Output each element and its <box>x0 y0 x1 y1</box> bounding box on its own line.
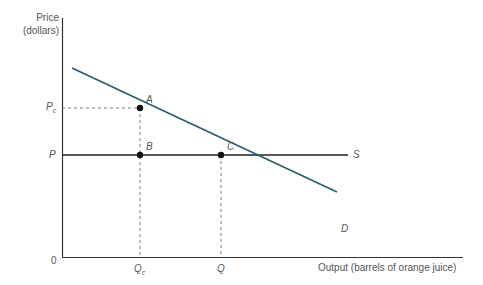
point-b-marker <box>137 152 143 158</box>
x-axis-label: Output (barrels of orange juice) <box>318 262 456 273</box>
point-c-label: C <box>227 141 234 152</box>
y-tick-pc: Pc <box>46 101 56 114</box>
origin-label: 0 <box>51 255 57 266</box>
y-axis-label-line2: (dollars) <box>20 25 59 36</box>
y-tick-p: P <box>49 149 56 160</box>
point-c-marker <box>218 152 224 158</box>
point-a-marker <box>137 105 143 111</box>
point-b-label: B <box>146 141 153 152</box>
x-tick-q: Q <box>217 263 225 274</box>
point-a-label: A <box>146 94 153 105</box>
supply-demand-chart <box>0 0 483 285</box>
supply-curve-label: S <box>353 149 360 160</box>
x-tick-qc: Qc <box>134 263 145 276</box>
demand-curve-label: D <box>341 223 348 234</box>
demand-line <box>72 68 337 192</box>
y-axis-label-line1: Price <box>33 12 59 23</box>
